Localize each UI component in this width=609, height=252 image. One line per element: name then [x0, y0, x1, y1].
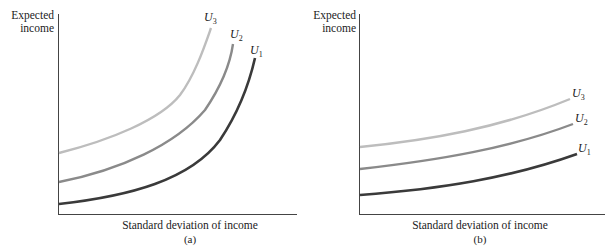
- label-u2: U2: [230, 27, 243, 43]
- label-u2: U2: [575, 111, 588, 127]
- label-u3: U3: [572, 86, 585, 102]
- curve-u1: [59, 58, 255, 204]
- plot-b: [300, 0, 609, 252]
- curve-u3: [360, 99, 570, 147]
- curve-u1: [360, 154, 577, 195]
- x-axis-label: Standard deviation of income: [90, 219, 290, 231]
- label-u1: U1: [578, 141, 591, 157]
- label-u3: U3: [204, 10, 217, 26]
- label-u1: U1: [250, 43, 263, 59]
- x-axis-label: Standard deviation of income: [380, 219, 580, 231]
- plot-a: [0, 0, 300, 252]
- panel-b: Expected income U3 U2 U1 Standard deviat…: [300, 0, 609, 252]
- panel-a: Expected income U3 U2 U1 Standard deviat…: [0, 0, 300, 252]
- curve-u3: [59, 28, 211, 153]
- curve-u2: [59, 44, 233, 182]
- panel-label: (a): [170, 233, 210, 245]
- panel-label: (b): [460, 233, 500, 245]
